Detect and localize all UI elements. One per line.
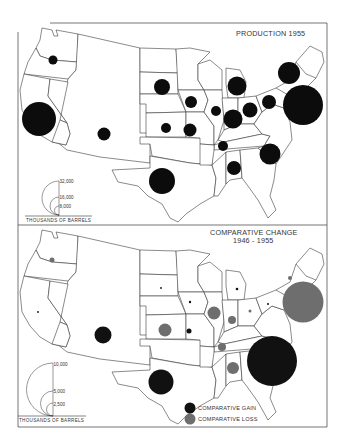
legend-arc-10000 xyxy=(27,363,53,416)
legend-gain-swatch xyxy=(185,403,196,414)
comparative-change-map-panel: COMPARATIVE CHANGE 1946 - 1955 xyxy=(18,225,327,427)
symbol-south-dakota xyxy=(154,79,170,95)
legend-loss-label: COMPARATIVE LOSS xyxy=(198,416,258,422)
gain-iowa xyxy=(189,301,191,303)
legend-tick-5000: 5,000 xyxy=(54,389,66,394)
legend-arc-32000 xyxy=(42,181,59,215)
gain-missouri xyxy=(187,329,192,334)
symbol-new-jersey xyxy=(283,85,323,125)
loss-alabama xyxy=(227,362,239,374)
symbol-tennessee xyxy=(218,141,228,151)
upper-map-title: PRODUCTION 1955 xyxy=(236,29,305,38)
gain-colorado xyxy=(95,327,112,344)
legend-tick-16000: 16,000 xyxy=(60,195,74,200)
us-state-outlines-lower xyxy=(20,230,324,424)
gain-michigan xyxy=(236,288,239,291)
loss-tennessee xyxy=(218,343,226,351)
lower-map-title-line2: 1946 - 1955 xyxy=(233,236,274,245)
gain-georgia xyxy=(247,336,297,386)
legend-arc-2500 xyxy=(47,403,53,416)
gain-south-dakota xyxy=(160,287,162,289)
legend-unit-label-lower: THOUSANDS OF BARRELS xyxy=(19,418,84,423)
production-map-panel: PRODUCTION 1955 xyxy=(18,23,327,225)
map-document: PRODUCTION 1955 xyxy=(0,0,347,447)
gain-california xyxy=(37,311,39,313)
loss-illinois xyxy=(208,307,221,320)
loss-new-york xyxy=(288,276,292,280)
lower-size-legend: 10,000 5,000 2,500 THOUSANDS OF BARRELS xyxy=(18,362,86,423)
upper-size-legend: 32,000 16,000 8,000 THOUSANDS OF BARRELS xyxy=(25,179,92,223)
legend-loss-swatch xyxy=(185,414,196,425)
symbol-california xyxy=(22,102,56,136)
symbol-texas xyxy=(149,168,175,194)
legend-arc-8000 xyxy=(55,206,59,215)
symbol-kansas xyxy=(161,123,171,133)
legend-unit-label: THOUSANDS OF BARRELS xyxy=(26,218,91,223)
symbol-michigan xyxy=(228,77,247,96)
symbol-missouri xyxy=(184,124,197,137)
legend-tick-8000: 8,000 xyxy=(60,204,72,209)
legend-tick-10000: 10,000 xyxy=(54,362,68,367)
legend-gain-label: COMPARATIVE GAIN xyxy=(198,405,256,411)
symbol-illinois xyxy=(211,106,221,116)
loss-new-jersey xyxy=(283,282,324,323)
symbol-indiana xyxy=(224,110,243,129)
loss-kansas xyxy=(159,324,172,337)
gain-texas xyxy=(149,370,174,395)
symbol-ohio xyxy=(243,103,258,118)
loss-indiana xyxy=(228,316,236,324)
gain-pennsylvania-west xyxy=(267,303,269,305)
symbol-colorado xyxy=(98,128,111,141)
legend-tick-2500: 2,500 xyxy=(54,402,66,407)
loss-washington xyxy=(50,258,55,263)
us-state-outlines xyxy=(20,28,324,222)
legend-tick-32000: 32,000 xyxy=(60,179,74,184)
loss-ohio xyxy=(249,310,252,313)
symbol-iowa xyxy=(185,96,197,108)
symbol-new-york xyxy=(278,62,300,84)
symbol-alabama xyxy=(227,161,241,175)
symbol-pennsylvania-west xyxy=(262,95,276,109)
symbol-georgia xyxy=(260,144,281,165)
symbol-washington xyxy=(49,56,58,65)
